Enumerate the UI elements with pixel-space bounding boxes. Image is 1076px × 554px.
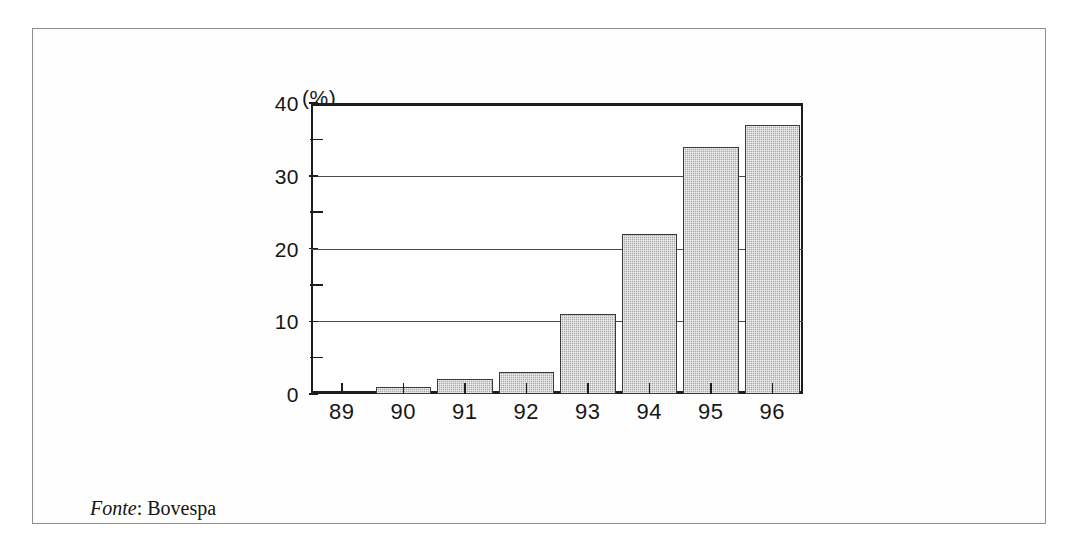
- y-axis-label: 20: [257, 238, 299, 259]
- x-axis-tick: [341, 383, 343, 394]
- source-caption: Fonte: Bovespa: [90, 497, 216, 520]
- y-axis-label: 30: [257, 165, 299, 186]
- y-axis-label: 0: [257, 384, 299, 405]
- y-axis-label: 10: [257, 311, 299, 332]
- x-axis-tick: [710, 383, 712, 394]
- bar: [683, 147, 739, 394]
- source-caption-value: Bovespa: [147, 497, 216, 519]
- source-caption-separator: :: [137, 497, 148, 519]
- x-axis-tick: [526, 383, 528, 394]
- x-axis-tick: [587, 383, 589, 394]
- x-axis-label: 96: [742, 401, 804, 423]
- x-axis-tick: [403, 383, 405, 394]
- x-axis-label: 94: [619, 401, 681, 423]
- x-axis-label: 90: [373, 401, 435, 423]
- y-axis-label: 40: [257, 93, 299, 114]
- bar-chart: 010203040: [311, 103, 803, 394]
- bar: [745, 125, 801, 394]
- bar: [560, 314, 616, 394]
- bars: [311, 103, 803, 394]
- x-axis-tick: [464, 383, 466, 394]
- x-axis-tick: [649, 383, 651, 394]
- x-axis-label: 92: [496, 401, 558, 423]
- source-caption-term: Fonte: [90, 497, 137, 519]
- x-axis-label: 89: [311, 401, 373, 423]
- x-axis-label: 95: [680, 401, 742, 423]
- x-axis-label: 93: [557, 401, 619, 423]
- x-axis-label: 91: [434, 401, 496, 423]
- bar: [622, 234, 678, 394]
- x-axis-tick: [772, 383, 774, 394]
